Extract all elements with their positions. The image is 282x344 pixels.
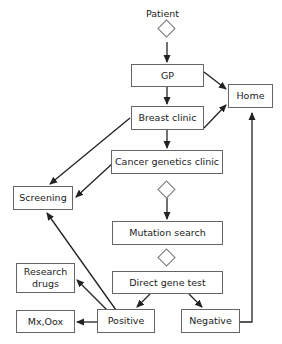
- start-label-patient: Patient: [146, 8, 179, 19]
- node-home: Home: [228, 84, 273, 108]
- node-screening: Screening: [13, 186, 73, 210]
- flowchart: Patient GP Home Breast clinic Cancer gen…: [0, 0, 282, 344]
- node-cancer-genetics-clinic: Cancer genetics clinic: [111, 150, 223, 174]
- node-positive: Positive: [97, 309, 155, 333]
- node-direct-gene-test: Direct gene test: [112, 271, 223, 294]
- node-negative: Negative: [181, 309, 240, 333]
- node-research-drugs: Research drugs: [16, 263, 75, 293]
- node-gp: GP: [131, 64, 204, 87]
- node-mx-oox: Mx,Oox: [16, 310, 75, 333]
- node-mutation-search: Mutation search: [112, 221, 223, 245]
- node-breast-clinic: Breast clinic: [131, 106, 204, 130]
